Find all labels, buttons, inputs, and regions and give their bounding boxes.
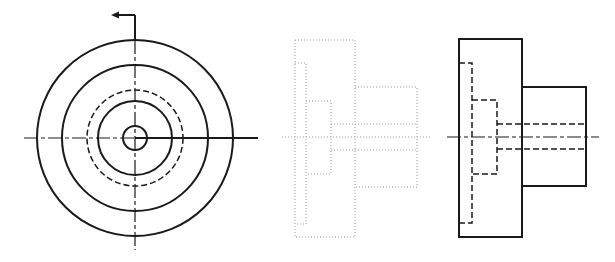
flange-outline — [459, 39, 522, 237]
dotted-boss-outline — [355, 87, 417, 187]
technical-drawing — [0, 0, 615, 262]
middle-dotted-side-view — [282, 40, 430, 237]
dotted-flange-outline — [295, 40, 355, 237]
dotted-counterbore-outline — [295, 63, 306, 224]
right-side-view — [447, 39, 599, 237]
arrow-left-icon — [111, 12, 119, 19]
hidden-counterbore — [459, 63, 472, 223]
front-circular-view — [24, 12, 258, 251]
